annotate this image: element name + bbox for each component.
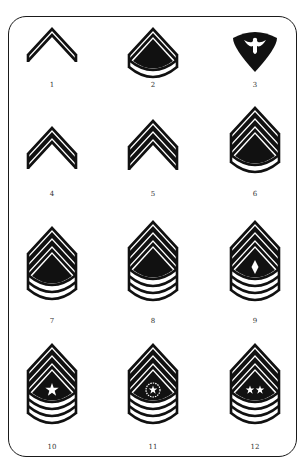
insignia-label-10: 10 bbox=[32, 443, 72, 451]
insignia-label-8: 8 bbox=[133, 317, 173, 325]
insignia-label-5: 5 bbox=[133, 190, 173, 198]
insignia-label-7: 7 bbox=[32, 317, 72, 325]
insignia-4-icon bbox=[28, 128, 76, 169]
insignia-3-icon bbox=[233, 32, 277, 72]
insignia-label-3: 3 bbox=[235, 81, 275, 89]
insignia-label-2: 2 bbox=[133, 81, 173, 89]
insignia-label-12: 12 bbox=[235, 443, 275, 451]
insignia-6-icon bbox=[231, 108, 279, 172]
insignia-label-9: 9 bbox=[235, 317, 275, 325]
insignia-artwork bbox=[0, 0, 308, 466]
insignia-label-6: 6 bbox=[235, 190, 275, 198]
insignia-label-1: 1 bbox=[32, 81, 72, 89]
insignia-8-icon bbox=[129, 222, 177, 300]
insignia-label-11: 11 bbox=[133, 443, 173, 451]
insignia-2-icon bbox=[129, 29, 177, 77]
insignia-5-icon bbox=[129, 121, 177, 170]
insignia-label-4: 4 bbox=[32, 190, 72, 198]
insignia-10-icon bbox=[28, 345, 76, 423]
insignia-7-icon bbox=[28, 228, 76, 299]
insignia-11-icon bbox=[129, 345, 177, 423]
insignia-9-icon bbox=[231, 222, 279, 300]
insignia-1-icon bbox=[28, 29, 76, 62]
insignia-12-icon bbox=[231, 345, 279, 423]
